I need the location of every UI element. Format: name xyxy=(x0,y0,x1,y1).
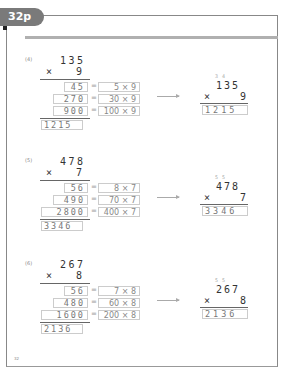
times-sign: × xyxy=(46,66,55,77)
equals-sign: = xyxy=(91,298,97,306)
expression-box: 5 × 9 xyxy=(98,82,140,92)
shortcut-times-sign: × xyxy=(204,295,212,306)
expression-box: 30 × 9 xyxy=(98,94,140,104)
multiplicand: 478 xyxy=(60,156,86,167)
result-box: 3346 xyxy=(41,221,83,231)
carry-digits: 55 xyxy=(215,174,229,180)
carry-digits: 55 xyxy=(215,277,229,283)
rule-line xyxy=(40,118,90,119)
arrow-icon xyxy=(157,300,179,301)
header-divider xyxy=(25,36,278,39)
page-tab: 32p xyxy=(0,8,44,26)
rule-line xyxy=(40,219,90,220)
carry-digits: 34 xyxy=(215,73,229,79)
partial-product-box: 45 xyxy=(64,82,88,92)
shortcut-multiplicand: 478 xyxy=(216,181,240,192)
shortcut-result-box: 1215 xyxy=(202,105,248,115)
equals-sign: = xyxy=(91,183,97,191)
expression-box: 7 × 8 xyxy=(98,286,140,296)
rule-line xyxy=(40,180,90,181)
expression-box: 8 × 7 xyxy=(98,183,140,193)
multiplier: 7 xyxy=(76,167,85,178)
problem-label: (4) xyxy=(25,56,32,62)
equals-sign: = xyxy=(91,82,97,90)
shortcut-times-sign: × xyxy=(204,91,212,102)
expression-box: 70 × 7 xyxy=(98,195,140,205)
expression-box: 200 × 8 xyxy=(98,310,140,320)
partial-product-box: 56 xyxy=(64,183,88,193)
multiplier: 9 xyxy=(76,66,85,77)
shortcut-result-box: 2136 xyxy=(202,309,248,319)
problem-label: (5) xyxy=(25,157,32,163)
arrow-icon xyxy=(157,197,179,198)
times-sign: × xyxy=(46,167,55,178)
partial-product-box: 56 xyxy=(64,286,88,296)
rule-line xyxy=(40,283,90,284)
shortcut-multiplier: 7 xyxy=(240,192,248,203)
page-number: 32 xyxy=(14,356,19,361)
shortcut-result-box: 3346 xyxy=(202,206,248,216)
rule-line xyxy=(40,322,90,323)
shortcut-multiplier: 8 xyxy=(240,295,248,306)
arrow-icon xyxy=(157,96,179,97)
expression-box: 400 × 7 xyxy=(98,207,140,217)
expression-box: 60 × 8 xyxy=(98,298,140,308)
equals-sign: = xyxy=(91,195,97,203)
page-tab-label: 32p xyxy=(8,10,31,23)
result-box: 2136 xyxy=(41,324,83,334)
partial-product-box: 2800 xyxy=(41,207,88,217)
result-box: 1215 xyxy=(41,120,83,130)
tab-marker xyxy=(3,26,7,30)
equals-sign: = xyxy=(91,207,97,215)
expression-box: 100 × 9 xyxy=(98,106,140,116)
partial-product-box: 270 xyxy=(53,94,88,104)
rule-line xyxy=(40,79,90,80)
multiplicand: 267 xyxy=(60,259,86,270)
partial-product-box: 1600 xyxy=(41,310,88,320)
partial-product-box: 900 xyxy=(53,106,88,116)
problem-label: (6) xyxy=(25,260,32,266)
rule-line xyxy=(200,204,248,205)
partial-product-box: 490 xyxy=(53,195,88,205)
partial-product-box: 480 xyxy=(53,298,88,308)
multiplier: 8 xyxy=(76,270,85,281)
equals-sign: = xyxy=(91,310,97,318)
equals-sign: = xyxy=(91,106,97,114)
multiplicand: 135 xyxy=(60,55,86,66)
shortcut-multiplicand: 267 xyxy=(216,284,240,295)
equals-sign: = xyxy=(91,286,97,294)
shortcut-multiplier: 9 xyxy=(240,91,248,102)
equals-sign: = xyxy=(91,94,97,102)
shortcut-times-sign: × xyxy=(204,192,212,203)
rule-line xyxy=(200,307,248,308)
rule-line xyxy=(200,103,248,104)
times-sign: × xyxy=(46,270,55,281)
shortcut-multiplicand: 135 xyxy=(216,80,240,91)
